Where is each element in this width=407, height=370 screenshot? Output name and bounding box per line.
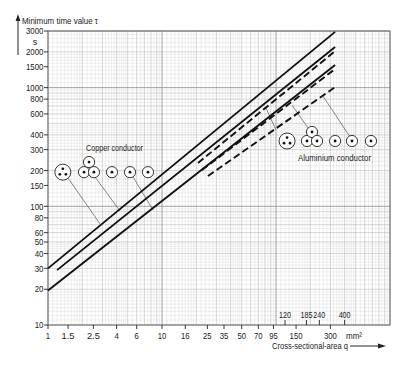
- single-core-cable-icon: [88, 167, 99, 178]
- three-core-cable-icon: [279, 133, 295, 149]
- x-tick-label: 35: [220, 331, 229, 341]
- x-tick-label: 1.5: [62, 331, 75, 341]
- plot-frame: [48, 31, 390, 325]
- y-tick-label: 200: [30, 166, 43, 176]
- x-tick-label: 1: [46, 331, 50, 341]
- time-vs-cross-section-chart: 3000200015001000800600400300200150100806…: [0, 0, 407, 370]
- y-tick-label: 1500: [26, 62, 44, 72]
- x-upper-tick-label: 185: [300, 310, 312, 320]
- x-tick-label: 6: [135, 331, 139, 341]
- y-tick-label: 100: [30, 202, 43, 212]
- x-tick-label: 10: [158, 331, 167, 341]
- y-tick-label: 150: [30, 181, 43, 191]
- y-tick-label: 80: [35, 213, 44, 223]
- y-tick-label: 10: [35, 320, 44, 330]
- y-tick-label: 30: [35, 264, 44, 274]
- x-tick-label: 150: [290, 331, 303, 341]
- log-grid: [48, 31, 390, 325]
- x-axis-arrowhead-icon: [378, 344, 386, 349]
- y-tick-label: 600: [30, 109, 43, 119]
- y-tick-label: 20: [35, 284, 44, 294]
- y-tick-label: 300: [30, 145, 43, 155]
- three-core-cable-icon: [55, 164, 71, 180]
- y-tick-label: 1000: [26, 83, 44, 93]
- x-tick-label: 25: [203, 331, 212, 341]
- x-upper-tick-label: 240: [313, 310, 325, 320]
- y-tick-label: 2000: [26, 47, 44, 57]
- y-tick-label: 400: [30, 130, 43, 140]
- single-core-cable-icon: [106, 167, 117, 178]
- y-tick-label: 800: [30, 94, 43, 104]
- x-tick-label: 50: [237, 331, 246, 341]
- single-core-cable-icon: [311, 135, 322, 146]
- x-axis-title: Cross-sectional-area q: [272, 341, 348, 351]
- y-tick-label: 50: [35, 237, 44, 247]
- y-axis-title: Minimum time value τ: [22, 16, 98, 26]
- x-tick-label: 4: [114, 331, 118, 341]
- x-tick-label: 16: [181, 331, 190, 341]
- x-tick-label: 300: [324, 331, 337, 341]
- x-tick-label: 95: [269, 331, 278, 341]
- aluminium-conductor-label: Aluminium conductor: [298, 153, 371, 163]
- single-core-cable-icon: [124, 167, 135, 178]
- x-tick-label: 2.5: [87, 331, 100, 341]
- x-upper-tick-label: 120: [279, 310, 291, 320]
- x-axis-unit: mm²: [346, 331, 362, 341]
- x-upper-tick-label: 400: [339, 310, 351, 320]
- copper-leader-line: [133, 177, 153, 210]
- single-core-cable-icon: [83, 156, 94, 167]
- single-core-cable-icon: [330, 135, 341, 146]
- single-core-cable-icon: [346, 135, 357, 146]
- single-core-cable-icon: [365, 135, 376, 146]
- y-axis-unit: s: [33, 37, 38, 47]
- single-core-cable-icon: [142, 167, 153, 178]
- y-tick-label: 3000: [26, 26, 44, 36]
- y-axis-arrowhead-icon: [16, 14, 21, 21]
- copper-conductor-label: Copper conductor: [86, 143, 143, 153]
- x-tick-label: 70: [254, 331, 263, 341]
- y-tick-label: 40: [35, 249, 44, 259]
